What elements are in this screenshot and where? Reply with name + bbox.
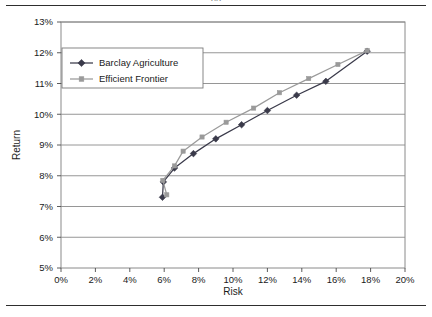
y-axis-tick-labels: 5%6%7%8%9%10%11%12%13% — [34, 16, 54, 273]
x-tick-label: 6% — [157, 274, 171, 285]
data-point-marker-square — [224, 120, 228, 124]
chart-figure: pg 5%6%7%8%9%10%11%12%13% 0%2%4%6%8%10%1… — [0, 0, 432, 317]
data-point-marker-square — [161, 178, 165, 182]
data-point-marker-square — [181, 149, 185, 153]
x-tick-label: 10% — [223, 274, 243, 285]
x-tick-label: 14% — [292, 274, 312, 285]
bottom-horizontal-rule — [6, 305, 426, 306]
data-point-marker-square — [336, 62, 340, 66]
x-axis-tick-labels: 0%2%4%6%8%10%12%14%16%18%20% — [54, 274, 415, 285]
y-axis-ticks — [57, 22, 61, 268]
x-tick-label: 16% — [327, 274, 347, 285]
data-point-marker-square — [307, 76, 311, 80]
y-tick-label: 8% — [39, 170, 53, 181]
chart-legend: Barclay AgricultureEfficient Frontier — [62, 48, 203, 88]
x-tick-label: 8% — [192, 274, 206, 285]
data-point-marker-square — [172, 164, 176, 168]
data-point-marker-square — [200, 135, 204, 139]
y-tick-label: 10% — [34, 109, 54, 120]
data-point-marker-square — [277, 91, 281, 95]
x-tick-label: 0% — [54, 274, 68, 285]
x-tick-label: 2% — [89, 274, 103, 285]
data-point-marker-square — [365, 48, 369, 52]
y-tick-label: 11% — [35, 78, 54, 89]
x-tick-label: 18% — [361, 274, 381, 285]
x-axis-title: Risk — [223, 286, 243, 297]
y-tick-label: 7% — [39, 201, 53, 212]
x-tick-label: 20% — [395, 274, 415, 285]
legend-label: Barclay Agriculture — [99, 57, 178, 68]
y-axis-title: Return — [11, 130, 22, 160]
x-axis-ticks — [61, 268, 405, 272]
y-tick-label: 9% — [39, 139, 53, 150]
data-point-marker-square — [79, 77, 84, 82]
y-tick-label: 13% — [34, 16, 54, 27]
x-tick-label: 4% — [123, 274, 137, 285]
y-tick-label: 12% — [34, 47, 54, 58]
legend-label: Efficient Frontier — [99, 73, 168, 84]
data-point-marker-square — [165, 193, 169, 197]
x-tick-label: 12% — [258, 274, 278, 285]
risk-return-line-chart: 5%6%7%8%9%10%11%12%13% 0%2%4%6%8%10%12%1… — [0, 0, 432, 317]
y-tick-label: 5% — [39, 262, 53, 273]
data-point-marker-square — [252, 106, 256, 110]
y-tick-label: 6% — [39, 232, 53, 243]
